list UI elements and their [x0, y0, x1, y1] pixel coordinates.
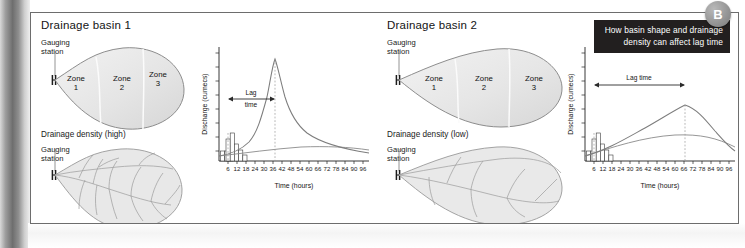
basin-2-drainage-density-label: Drainage density (low) — [387, 130, 468, 139]
chart-1-lag-label-line1: Lag — [245, 89, 256, 97]
chart-1-tick-13: 84 — [342, 165, 349, 172]
panel-drainage-basin-1: Drainage basin 1 Gauging station — [31, 13, 379, 223]
chart-2-tick-6: 42 — [645, 165, 652, 172]
chart-2-tick-8: 54 — [663, 165, 670, 172]
basin-2-zone-3-name: Zone — [525, 74, 543, 83]
page-bottom-edge — [28, 223, 745, 248]
chart-1-tick-11: 72 — [324, 165, 331, 172]
chart-1-tick-14: 90 — [351, 165, 358, 172]
chart-1-tick-8: 54 — [297, 165, 304, 172]
chart-2-tick-9: 60 — [672, 165, 679, 172]
chart-1-x-tick-labels: 6 12 18 24 30 36 42 48 54 60 66 72 78 84… — [226, 165, 367, 172]
chart-2-tick-13: 84 — [708, 165, 715, 172]
basin-1-density-outline — [55, 149, 182, 224]
basin-1-zone-1-label: Zone 1 — [61, 75, 91, 93]
chart-1-tick-5: 36 — [270, 165, 277, 172]
chart-2-tick-5: 36 — [636, 165, 643, 172]
chart-2-tick-14: 90 — [717, 165, 724, 172]
chart-1-y-axis-ticks — [216, 53, 220, 151]
basin-1-zone-1-name: Zone — [67, 74, 85, 83]
basin-2-zone-2-num: 2 — [482, 83, 486, 92]
chart-1-tick-7: 48 — [288, 165, 295, 172]
page-spine-edge — [0, 0, 30, 248]
chart-1-tick-2: 18 — [243, 165, 250, 172]
basin-1-drainage-density-label: Drainage density (high) — [41, 130, 126, 139]
chart-2-x-axis-label: Time (hours) — [641, 182, 680, 190]
basin-2-zone-3-label: Zone 3 — [519, 75, 549, 93]
chart-2-tick-10: 66 — [681, 165, 688, 172]
chart-2-tick-4: 30 — [627, 165, 634, 172]
chart-2-y-axis-ticks — [582, 53, 586, 151]
chart-1-tick-1: 12 — [234, 165, 241, 172]
chart-2-storm-hydrograph-curve — [585, 105, 735, 156]
basin-1-zone-divider-2 — [143, 49, 144, 129]
basin-1-title: Drainage basin 1 — [41, 19, 131, 31]
chart-1-tick-15: 96 — [360, 165, 367, 172]
figure-frame: Drainage basin 1 Gauging station — [30, 12, 739, 224]
chart-2-tick-1: 12 — [600, 165, 607, 172]
basin-2-zone-1-num: 1 — [432, 83, 436, 92]
chart-1-storm-hydrograph-curve — [219, 59, 369, 156]
chart-1-tick-3: 24 — [252, 165, 259, 172]
basin-1-zone-2-num: 2 — [120, 83, 124, 92]
basin-2-zone-1-name: Zone — [425, 74, 443, 83]
chart-2-lag-time-label: Lag time — [626, 74, 652, 82]
hydrograph-chart-basin-2: 6 12 18 24 30 36 42 48 54 60 66 72 78 84… — [563, 43, 739, 205]
chart-2-lag-time-arrow — [594, 83, 685, 88]
chart-1-lag-label-line2: time — [245, 101, 258, 108]
chart-2-y-axis-label: Discharge (cumecs) — [567, 73, 575, 134]
chart-1-tick-12: 78 — [333, 165, 340, 172]
chart-2-tick-0: 6 — [592, 165, 596, 172]
basin-2-density-outline — [399, 147, 562, 224]
chart-2-tick-11: 72 — [690, 165, 697, 172]
chart-1-tick-10: 66 — [315, 165, 322, 172]
chart-2-tick-3: 24 — [618, 165, 625, 172]
basin-1-zone-1-num: 1 — [74, 83, 78, 92]
chart-2-tick-7: 48 — [654, 165, 661, 172]
chart-1-y-axis-label: Discharge (cumecs) — [201, 73, 209, 134]
basin-1-zone-3-num: 3 — [156, 79, 160, 88]
chart-1-tick-6: 42 — [279, 165, 286, 172]
chart-2-tick-12: 78 — [699, 165, 706, 172]
figure-caption-box: How basin shape and drainage density can… — [594, 20, 730, 53]
basin-1-zone-2-label: Zone 2 — [107, 75, 137, 93]
basin-1-zone-3-label: Zone 3 — [143, 71, 173, 89]
chart-1-tick-9: 60 — [306, 165, 313, 172]
basin-2-zone-1-label: Zone 1 — [419, 75, 449, 93]
chart-2-tick-15: 96 — [726, 165, 733, 172]
basin-1-drainage-density-diagram — [39, 143, 197, 223]
chart-1-x-axis-label: Time (hours) — [275, 182, 314, 190]
basin-2-zone-3-num: 3 — [532, 83, 536, 92]
chart-1-tick-0: 6 — [226, 165, 230, 172]
basin-1-zone-3-name: Zone — [149, 70, 167, 79]
hydrograph-chart-basin-1: 6 12 18 24 30 36 42 48 54 60 66 72 78 84… — [197, 43, 375, 205]
chart-1-tick-4: 30 — [261, 165, 268, 172]
basin-1-zone-2-name: Zone — [113, 74, 131, 83]
chart-2-x-tick-labels: 6 12 18 24 30 36 42 48 54 60 66 72 78 84… — [592, 165, 733, 172]
basin-2-zone-divider-2 — [509, 49, 510, 127]
basin-2-drainage-density-diagram — [385, 143, 571, 224]
chart-2-tick-2: 18 — [609, 165, 616, 172]
basin-2-title: Drainage basin 2 — [387, 19, 477, 31]
basin-2-zone-2-label: Zone 2 — [469, 75, 499, 93]
section-badge-b: B — [705, 1, 731, 27]
basin-2-zone-2-name: Zone — [475, 74, 493, 83]
